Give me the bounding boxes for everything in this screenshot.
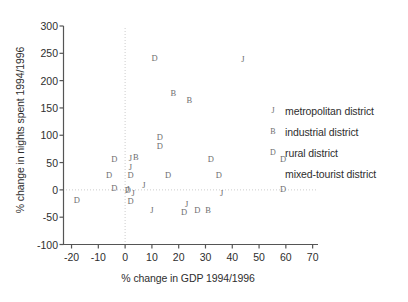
legend-label: metropolitan district: [280, 105, 374, 117]
data-point-D: D: [108, 184, 120, 193]
data-point-J: J: [138, 181, 150, 190]
data-point-B: B: [202, 206, 214, 215]
data-point-D: D: [162, 171, 174, 180]
data-point-J: J: [237, 55, 249, 64]
data-point-D: D: [191, 206, 203, 215]
data-point-D: D: [154, 142, 166, 151]
legend-marker-icon: D: [266, 148, 280, 157]
legend: Jmetropolitan districtBindustrial distri…: [266, 100, 406, 184]
legend-row: Drural district: [266, 142, 406, 163]
data-point-B: B: [167, 89, 179, 98]
data-point-D: D: [178, 208, 190, 217]
x-axis-label: % change in GDP 1994/1996: [63, 272, 313, 284]
data-point-J: J: [216, 189, 228, 198]
y-axis-label: % change in nights spent 1994/1996: [14, 15, 32, 245]
legend-label: industrial district: [280, 126, 358, 138]
data-point-B: B: [183, 96, 195, 105]
scatter-plot-figure: -100-50050100150200250300 -20-1001020304…: [0, 0, 408, 302]
data-point-D: D: [108, 155, 120, 164]
data-point-D: D: [124, 197, 136, 206]
data-point-D: D: [124, 171, 136, 180]
legend-row: Jmetropolitan district: [266, 100, 406, 121]
data-point-D: D: [103, 171, 115, 180]
data-point-J: J: [146, 206, 158, 215]
legend-label: mixed-tourist district: [280, 168, 376, 180]
data-point-D: D: [213, 171, 225, 180]
data-point-D: D: [277, 185, 289, 194]
data-point-B: B: [130, 153, 142, 162]
legend-label: rural district: [280, 147, 338, 159]
data-point-D: D: [154, 133, 166, 142]
legend-row: Bindustrial district: [266, 121, 406, 142]
legend-marker-icon: B: [266, 127, 280, 136]
data-point-D: D: [149, 54, 161, 63]
data-point-D: D: [205, 155, 217, 164]
legend-row: mixed-tourist district: [266, 163, 406, 184]
data-point-D: D: [122, 186, 134, 195]
legend-marker-icon: J: [266, 106, 280, 115]
data-point-D: D: [71, 196, 83, 205]
